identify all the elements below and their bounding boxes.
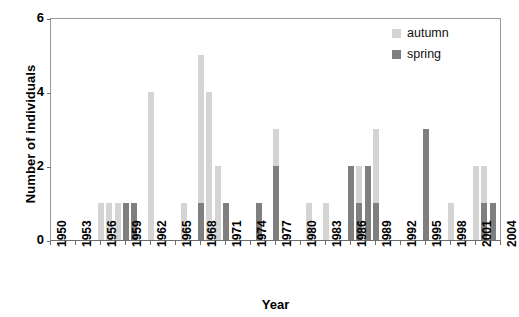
x-tick-label: 1950 bbox=[55, 220, 69, 247]
bar bbox=[448, 203, 454, 240]
bar bbox=[348, 166, 354, 240]
y-tick-label: 0 bbox=[26, 235, 44, 245]
bar bbox=[148, 92, 154, 240]
x-tick-label: 1968 bbox=[205, 220, 219, 247]
x-tick-label: 1986 bbox=[355, 220, 369, 247]
x-tick-label: 1983 bbox=[330, 220, 344, 247]
x-tick-mark bbox=[50, 241, 51, 245]
x-tick-mark bbox=[125, 241, 126, 245]
x-tick-mark bbox=[475, 241, 476, 245]
y-tick-label: 6 bbox=[26, 13, 44, 23]
bar-segment-autumn bbox=[356, 166, 362, 203]
bar-segment-autumn bbox=[206, 92, 212, 240]
bar-segment-autumn bbox=[273, 129, 279, 166]
x-tick-mark bbox=[75, 241, 76, 245]
bar-segment-autumn bbox=[148, 92, 154, 240]
bar-segment-autumn bbox=[448, 203, 454, 240]
legend-swatch-icon bbox=[392, 29, 401, 38]
x-tick-label: 1995 bbox=[430, 220, 444, 247]
bar bbox=[323, 203, 329, 240]
x-tick-mark bbox=[500, 241, 501, 245]
bar bbox=[98, 203, 104, 240]
x-tick-label: 1971 bbox=[230, 220, 244, 247]
x-tick-label: 1953 bbox=[80, 220, 94, 247]
bar bbox=[123, 203, 129, 240]
bar-segment-spring bbox=[198, 203, 204, 240]
legend-item-spring: spring bbox=[392, 47, 449, 61]
x-tick-mark bbox=[300, 241, 301, 245]
bar-segment-autumn bbox=[198, 55, 204, 203]
bar-segment-spring bbox=[348, 166, 354, 240]
x-tick-label: 2004 bbox=[505, 220, 519, 247]
legend-label: spring bbox=[407, 47, 441, 61]
bar bbox=[473, 166, 479, 240]
bar-segment-autumn bbox=[473, 166, 479, 240]
x-tick-label: 1962 bbox=[155, 220, 169, 247]
x-tick-mark bbox=[375, 241, 376, 245]
x-tick-label: 1980 bbox=[305, 220, 319, 247]
x-tick-label: 1965 bbox=[180, 220, 194, 247]
x-tick-mark bbox=[175, 241, 176, 245]
x-tick-label: 1998 bbox=[455, 220, 469, 247]
bar bbox=[373, 129, 379, 240]
y-tick-label: 2 bbox=[26, 161, 44, 171]
x-axis-title: Year bbox=[50, 297, 501, 312]
x-tick-label: 1959 bbox=[130, 220, 144, 247]
bar bbox=[223, 203, 229, 240]
bar-segment-spring bbox=[123, 203, 129, 240]
x-tick-label: 2001 bbox=[480, 220, 494, 247]
x-tick-label: 1974 bbox=[255, 220, 269, 247]
bar bbox=[198, 55, 204, 240]
chart-legend: autumnspring bbox=[392, 26, 449, 61]
x-tick-label: 1992 bbox=[405, 220, 419, 247]
bar-segment-spring bbox=[223, 203, 229, 240]
x-tick-mark bbox=[450, 241, 451, 245]
bar-segment-autumn bbox=[373, 129, 379, 203]
x-tick-mark bbox=[100, 241, 101, 245]
legend-item-autumn: autumn bbox=[392, 26, 449, 40]
y-tick-label: 4 bbox=[26, 87, 44, 97]
bar-segment-autumn bbox=[323, 203, 329, 240]
x-tick-mark bbox=[325, 241, 326, 245]
bar bbox=[206, 92, 212, 240]
x-tick-mark bbox=[275, 241, 276, 245]
x-tick-mark bbox=[200, 241, 201, 245]
x-tick-label: 1956 bbox=[105, 220, 119, 247]
bar bbox=[273, 129, 279, 240]
bar-segment-autumn bbox=[98, 203, 104, 240]
y-tick-mark bbox=[47, 93, 51, 94]
x-tick-label: 1977 bbox=[280, 220, 294, 247]
x-tick-mark bbox=[225, 241, 226, 245]
bar-segment-autumn bbox=[481, 166, 487, 203]
x-tick-mark bbox=[250, 241, 251, 245]
x-tick-mark bbox=[425, 241, 426, 245]
x-tick-mark bbox=[150, 241, 151, 245]
legend-swatch-icon bbox=[392, 50, 401, 59]
y-tick-mark bbox=[47, 19, 51, 20]
x-tick-mark bbox=[400, 241, 401, 245]
x-tick-mark bbox=[350, 241, 351, 245]
y-tick-mark bbox=[47, 167, 51, 168]
bar bbox=[423, 129, 429, 240]
bar-segment-spring bbox=[423, 129, 429, 240]
x-tick-label: 1989 bbox=[380, 220, 394, 247]
bar-segment-spring bbox=[373, 203, 379, 240]
bar-segment-spring bbox=[273, 166, 279, 240]
legend-label: autumn bbox=[407, 26, 449, 40]
y-tick-label-group: 0246 bbox=[20, 0, 44, 317]
